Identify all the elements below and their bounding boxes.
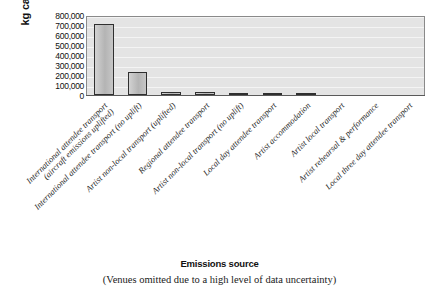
x-axis-title: Emissions source	[0, 258, 439, 269]
bar-slot	[323, 17, 357, 95]
y-tick-label: 500,000	[36, 42, 84, 50]
x-axis-category-labels: International attendee transport(aircraf…	[0, 97, 439, 247]
y-axis-title: kg carbon dioxide	[14, 0, 36, 30]
plot-area	[86, 16, 425, 96]
bar-slot	[87, 17, 121, 95]
bar-slot	[154, 17, 188, 95]
y-tick-label: 200,000	[36, 72, 84, 80]
y-tick-label: 300,000	[36, 62, 84, 70]
y-tick-label: 800,000	[36, 12, 84, 20]
bar[interactable]	[128, 72, 148, 95]
y-tick-label: 600,000	[36, 32, 84, 40]
emissions-bar-chart: kg carbon dioxide 800,000700,000600,0005…	[0, 0, 439, 295]
y-tick-label: 700,000	[36, 22, 84, 30]
y-axis-tick-labels: 800,000700,000600,000500,000400,000300,0…	[36, 12, 84, 100]
bar[interactable]	[94, 24, 114, 95]
bar-series	[87, 17, 424, 95]
figure-caption: (Venues omitted due to a high level of d…	[0, 274, 439, 285]
bar-slot	[289, 17, 323, 95]
bar-slot	[390, 17, 424, 95]
bar-slot	[256, 17, 290, 95]
bar-slot	[121, 17, 155, 95]
x-axis-line	[86, 95, 425, 96]
y-tick-label: 400,000	[36, 52, 84, 60]
bar-slot	[222, 17, 256, 95]
bar-slot	[357, 17, 391, 95]
bar-slot	[188, 17, 222, 95]
y-tick-label: 100,000	[36, 82, 84, 90]
